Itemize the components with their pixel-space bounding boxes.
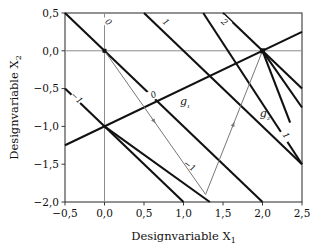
x-tick-label: 0,5 <box>136 207 153 219</box>
x-tick-label: 0,0 <box>96 207 113 219</box>
contour-level-label: −1 <box>182 158 198 173</box>
g2-label: g₂ <box>260 107 270 122</box>
contour-line-objective-contour-minus1 <box>65 89 184 202</box>
y-tick-label: 0,0 <box>42 45 59 57</box>
y-tick-label: −1,0 <box>34 120 60 132</box>
x-tick-label: 2,0 <box>254 207 271 219</box>
contour-level-label: −1 <box>69 90 85 106</box>
contour-line-objective-contour-0 <box>65 13 263 202</box>
x-tick-label: 1,5 <box>215 207 232 219</box>
x-tick-label: 1,0 <box>175 207 192 219</box>
x-tick-label: −0,5 <box>52 207 78 219</box>
y-tick-label: 0,5 <box>42 7 59 19</box>
x-axis-title: Designvariable X1 <box>131 229 236 245</box>
contour-line-objective-contour-1 <box>144 13 302 164</box>
optimum-point <box>260 48 265 53</box>
iteration-arrow <box>232 123 234 128</box>
y-tick-label: −2,0 <box>34 196 60 208</box>
x-tick-label: 2,5 <box>294 207 311 219</box>
y-tick-label: −1,5 <box>34 158 60 170</box>
iteration-arrow <box>152 119 155 123</box>
iteration-path-segment <box>206 51 263 195</box>
y-axis-title: Designvariable X2 <box>7 55 23 160</box>
figure-container: −0,50,00,51,01,52,02,50,50,0−0,5−1,0−1,5… <box>0 0 326 249</box>
y-tick-label: −0,5 <box>34 82 60 94</box>
g1-label: g₁ <box>180 95 190 110</box>
contour-line-constraint-g2-branch-a <box>263 51 303 108</box>
contour-line-constraint-g1-contour-0 <box>65 32 302 145</box>
contour-plot: −0,50,00,51,01,52,02,50,50,0−0,5−1,0−1,5… <box>0 0 326 249</box>
start-point <box>103 49 107 53</box>
